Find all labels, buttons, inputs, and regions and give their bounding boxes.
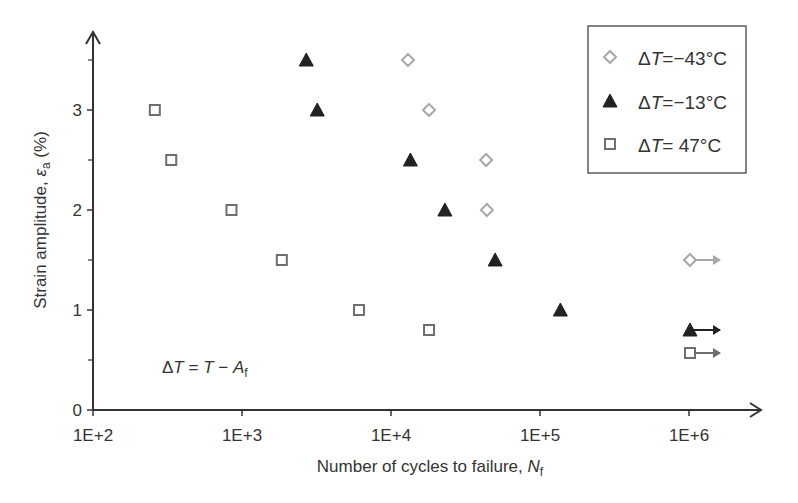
triangle-marker-icon xyxy=(403,153,417,166)
y-axis-title: Strain amplitude, εa (%) xyxy=(31,131,53,309)
y-tick-label: 3 xyxy=(73,101,82,120)
legend-label: ΔT= 47°C xyxy=(638,135,721,156)
runout-arrowhead-icon xyxy=(713,348,721,358)
square-marker-icon xyxy=(166,155,176,165)
diamond-marker-icon xyxy=(480,154,492,166)
square-marker-icon xyxy=(277,255,287,265)
runout-arrowhead-icon xyxy=(713,325,721,335)
x-tick-label: 1E+3 xyxy=(222,426,262,445)
diamond-marker-icon xyxy=(423,104,435,116)
square-marker-icon xyxy=(424,325,434,335)
legend-label: ΔT=−13°C xyxy=(638,92,727,113)
square-marker-icon xyxy=(685,348,695,358)
diamond-marker-icon xyxy=(402,54,414,66)
y-tick-label: 0 xyxy=(73,401,82,420)
scatter-chart: 1E+21E+31E+41E+51E+60123 Number of cycle… xyxy=(0,0,798,503)
legend-marker-icon xyxy=(605,139,615,149)
square-marker-icon xyxy=(150,105,160,115)
triangle-marker-icon xyxy=(299,53,313,66)
runout-arrowhead-icon xyxy=(713,255,721,265)
y-tick-label: 2 xyxy=(73,201,82,220)
x-tick-label: 1E+6 xyxy=(669,426,709,445)
triangle-marker-icon xyxy=(488,253,502,266)
x-tick-label: 1E+4 xyxy=(371,426,411,445)
triangle-marker-icon xyxy=(310,103,324,116)
square-marker-icon xyxy=(226,205,236,215)
x-tick-label: 1E+5 xyxy=(520,426,560,445)
delta-t-annotation: ΔT = T − Af xyxy=(162,358,248,380)
y-tick-label: 1 xyxy=(73,301,82,320)
x-axis-title: Number of cycles to failure, Nf xyxy=(317,457,544,479)
x-tick-label: 1E+2 xyxy=(73,426,113,445)
triangle-marker-icon xyxy=(553,303,567,316)
square-marker-icon xyxy=(354,305,364,315)
legend-label: ΔT=−43°C xyxy=(638,48,727,69)
legend: ΔT=−43°CΔT=−13°CΔT= 47°C xyxy=(588,26,746,173)
triangle-marker-icon xyxy=(438,203,452,216)
diamond-marker-icon xyxy=(481,204,493,216)
diamond-marker-icon xyxy=(684,254,696,266)
